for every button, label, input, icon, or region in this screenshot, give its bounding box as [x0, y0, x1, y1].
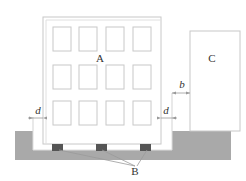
window [53, 27, 71, 51]
label-building-a: A [96, 52, 104, 64]
label-gap-right: d [163, 104, 169, 116]
bearing [140, 144, 151, 151]
window [106, 65, 124, 89]
window [53, 101, 71, 125]
window [53, 65, 71, 89]
window [79, 101, 97, 125]
bearing [96, 144, 107, 151]
bearing [52, 144, 63, 151]
window [133, 65, 151, 89]
label-bearings: B [131, 165, 138, 177]
diagram-canvas: A C B d d b [0, 0, 246, 181]
dimension-b [172, 92, 190, 132]
window [79, 27, 97, 51]
ground-right-block [172, 131, 231, 160]
label-separation: b [179, 78, 185, 90]
window [133, 27, 151, 51]
window [106, 101, 124, 125]
label-building-c: C [208, 52, 215, 64]
window [133, 101, 151, 125]
window [79, 65, 97, 89]
window [106, 27, 124, 51]
building-c [190, 31, 240, 131]
label-gap-left: d [35, 104, 41, 116]
